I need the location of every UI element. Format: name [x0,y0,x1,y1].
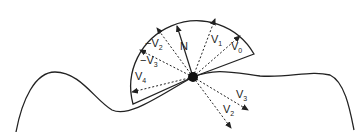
v1-arrow [193,19,215,77]
surface-point [188,72,198,82]
label-v4: V4 [135,70,146,84]
label-v2: V2 [223,103,234,117]
neg-v2-arrow [157,28,193,77]
label-v3: V3 [236,88,247,102]
label-v0: V0 [231,40,242,54]
label-v1: V1 [211,33,222,47]
hemisphere-diagram: N V0 V1 −V2 −V3 V4 V3 V2 [0,0,364,140]
label-neg-v3: −V3 [140,54,158,68]
label-neg-v2: −V2 [145,37,163,51]
label-n: N [180,40,188,52]
